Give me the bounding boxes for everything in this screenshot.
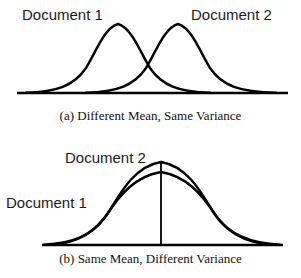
panel-a-caption: (a) Different Mean, Same Variance <box>0 108 301 123</box>
plot-b-label-document-2: Document 2 <box>65 149 146 166</box>
plot-a-label-document-2: Document 2 <box>191 6 272 23</box>
panel-different-mean-same-variance: Document 1 Document 2 (a) Different Mean… <box>0 0 301 132</box>
plot-a-curve-document-2 <box>86 24 276 93</box>
plot-a-curve-document-1 <box>26 24 210 93</box>
plot-b-label-document-1: Document 1 <box>6 194 87 211</box>
plot-a-label-document-1: Document 1 <box>22 6 103 23</box>
panel-b-caption: (b) Same Mean, Different Variance <box>0 251 301 266</box>
panel-same-mean-different-variance: Document 2 Document 1 (b) Same Mean, Dif… <box>0 132 301 278</box>
figure-normal-distributions: Document 1 Document 2 (a) Different Mean… <box>0 0 301 278</box>
